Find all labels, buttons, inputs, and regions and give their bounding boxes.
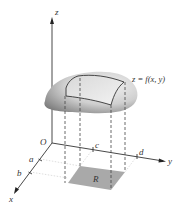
y-axis-label: y [167,156,172,166]
z-arrow-icon [50,17,54,24]
z-axis-label: z [54,7,59,17]
region-label: R [92,174,99,184]
y-axis [52,143,163,161]
diagram-canvas: z y x O a b c d R z = f(x, y) [0,0,185,207]
x-axis-label: x [8,194,13,204]
tick-c-label: c [95,140,99,150]
double-integral-diagram: z y x O a b c d R z = f(x, y) [0,0,185,207]
tick-b-label: b [17,168,22,178]
tick-d-label: d [139,147,144,157]
y-arrow-icon [159,159,167,163]
origin-label: O [40,137,47,147]
x-axis [16,143,52,191]
surface-label: z = f(x, y) [131,74,165,84]
tick-a-label: a [29,154,34,164]
